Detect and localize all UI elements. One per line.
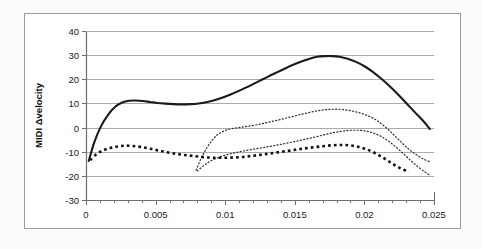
y-tick-label: -30: [65, 195, 79, 206]
y-tick-label: 0: [74, 123, 79, 134]
y-tick-label: 10: [68, 98, 79, 109]
x-tick-label: 0: [83, 209, 88, 220]
y-tick-label: 40: [68, 26, 79, 37]
x-tick-label: 0.005: [144, 209, 168, 220]
y-tick-label: -20: [65, 171, 79, 182]
chart-canvas: -30-20-1001020304000.0050.010.0150.020.0…: [0, 0, 482, 249]
x-tick-label: 0.015: [283, 209, 307, 220]
x-tick-label: 0.01: [216, 209, 235, 220]
chart-outer-border: [25, 14, 461, 229]
x-tick-label: 0.025: [422, 209, 446, 220]
x-tick-label: 0.02: [355, 209, 374, 220]
y-tick-label: -10: [65, 147, 79, 158]
chart-container: -30-20-1001020304000.0050.010.0150.020.0…: [0, 0, 482, 249]
y-tick-label: 30: [68, 50, 79, 61]
y-tick-label: 20: [68, 74, 79, 85]
y-axis-title: MIDI Δvelocity: [33, 82, 44, 148]
